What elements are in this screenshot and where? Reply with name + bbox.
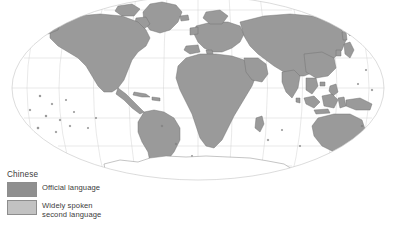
map-legend: Chinese Official language Widely spoken … <box>7 169 127 222</box>
legend-swatch-second-language <box>7 200 37 215</box>
land-hainan <box>320 82 325 86</box>
legend-item-second-language: Widely spoken second language <box>7 200 127 219</box>
legend-label-second-language: Widely spoken second language <box>42 200 101 219</box>
land-new-zealand-south <box>372 149 380 158</box>
legend-item-official-language: Official language <box>7 182 127 197</box>
land-tasmania <box>348 155 354 160</box>
legend-label-official-language: Official language <box>42 182 100 193</box>
legend-title: Chinese <box>7 169 127 180</box>
land-iceland <box>180 15 189 21</box>
legend-swatch-official-language <box>7 182 37 197</box>
legend-label-line: second language <box>42 211 101 220</box>
world-map-figure: Chinese Official language Widely spoken … <box>0 0 396 241</box>
land-british-isles <box>190 27 198 35</box>
legend-label-line: Official language <box>42 184 100 193</box>
land-java <box>314 109 330 114</box>
land-new-zealand <box>378 138 386 150</box>
land-sri-lanka <box>296 98 300 103</box>
land-korea <box>336 50 341 56</box>
